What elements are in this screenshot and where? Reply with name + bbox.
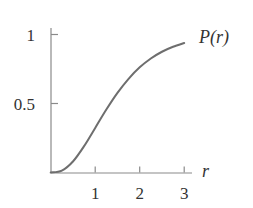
y-tick-label: 1 bbox=[27, 26, 36, 45]
x-tick-label: 1 bbox=[91, 184, 100, 203]
chart: 0.51 123 P(r) r bbox=[0, 0, 253, 208]
x-axis-label: r bbox=[202, 161, 210, 181]
x-ticks: 123 bbox=[91, 167, 189, 204]
p-of-r-curve bbox=[51, 43, 185, 172]
curve-label: P(r) bbox=[198, 27, 229, 48]
y-tick-label: 0.5 bbox=[14, 95, 35, 114]
x-tick-label: 2 bbox=[135, 184, 144, 203]
x-tick-label: 3 bbox=[180, 184, 189, 203]
